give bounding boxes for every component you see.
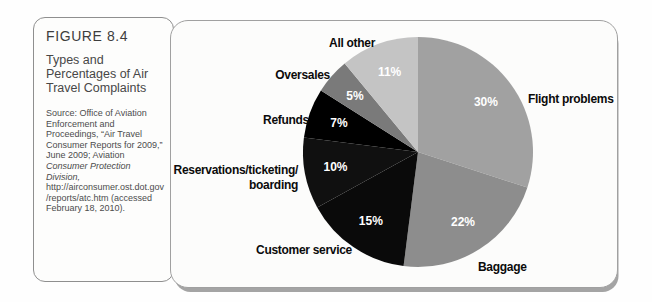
pie-chart: 30%Flight problems22%Baggage15%Customer … (171, 21, 619, 289)
pct-label-baggage: 22% (451, 215, 475, 229)
pct-label-customer-service: 15% (359, 214, 383, 228)
pct-label-refunds: 7% (330, 116, 348, 130)
figure-source-italic: Consumer Protection Division, (46, 161, 131, 182)
slice-label-reservations-ticketing-boarding: Reservations/ticketing/boarding (174, 163, 299, 192)
slice-label-baggage: Baggage (478, 260, 527, 274)
figure-number: FIGURE 8.4 (46, 28, 165, 44)
pct-label-reservations-ticketing-boarding: 10% (323, 160, 347, 174)
figure-source-text: Source: Office of Aviation Enforcement a… (46, 108, 163, 160)
pct-label-all-other: 11% (378, 65, 402, 79)
slice-label-customer-service: Customer service (256, 243, 353, 257)
slice-label-oversales: Oversales (275, 68, 330, 82)
pct-label-oversales: 5% (346, 89, 364, 103)
figure-title: Types and Percentages of Air Travel Comp… (46, 53, 168, 95)
figure-source: Source: Office of Aviation Enforcement a… (46, 108, 166, 214)
figure-label-panel: FIGURE 8.4 Types and Percentages of Air … (33, 17, 174, 282)
figure-source-text-2: http://airconsumer.ost.dot.gov/reports/a… (46, 182, 164, 213)
slice-label-all-other: All other (329, 36, 376, 50)
slice-label-refunds: Refunds (263, 113, 310, 127)
pct-label-flight-problems: 30% (474, 95, 498, 109)
slice-label-flight-problems: Flight problems (528, 92, 614, 106)
chart-panel: 30%Flight problems22%Baggage15%Customer … (170, 20, 618, 288)
